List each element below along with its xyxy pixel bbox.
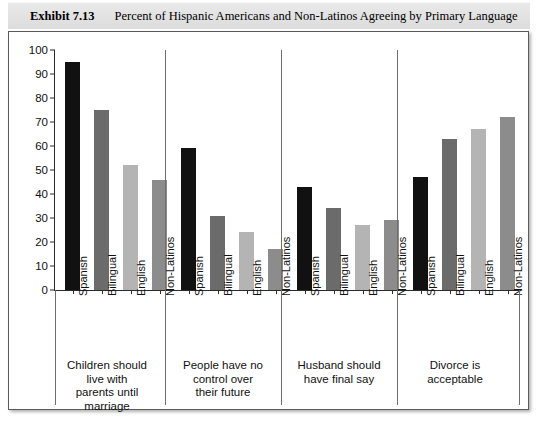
- x-axis-tick-label: English: [123, 294, 138, 354]
- x-axis-tick-mark: [73, 290, 74, 294]
- group-caption: People have nocontrol overtheir future: [167, 359, 279, 400]
- x-axis-tick-mark: [276, 290, 277, 294]
- y-axis-tick-label: 50: [35, 164, 48, 176]
- y-axis-tick-label: 70: [35, 116, 48, 128]
- y-axis-tick-label: 20: [35, 236, 48, 248]
- x-axis-tick-mark: [247, 290, 248, 294]
- x-axis-tick-mark: [392, 290, 393, 294]
- x-axis-tick-mark: [218, 290, 219, 294]
- chart-frame: 0102030405060708090100 SpanishBilingualE…: [8, 31, 529, 410]
- group-caption-line: acceptable: [399, 373, 511, 387]
- x-axis-tick-mark: [450, 290, 451, 294]
- group-separator: [397, 50, 398, 405]
- x-axis-tick-mark: [334, 290, 335, 294]
- x-axis-tick-label: Bilingual: [210, 294, 225, 354]
- x-axis-tick-mark: [189, 290, 190, 294]
- group-caption-line: People have no: [167, 359, 279, 373]
- x-axis-tick-label: English: [471, 294, 486, 354]
- x-axis-tick-label: Spanish: [413, 294, 428, 354]
- group-caption-line: their future: [167, 386, 279, 400]
- x-axis-tick-label: English: [239, 294, 254, 354]
- x-axis-tick-mark: [508, 290, 509, 294]
- x-axis-tick-label: Spanish: [65, 294, 80, 354]
- x-axis-tick-mark: [421, 290, 422, 294]
- x-axis-tick-label: Non-Latinos: [500, 294, 515, 354]
- group-caption-line: parents until: [51, 386, 163, 400]
- group-separator: [281, 50, 282, 405]
- exhibit-header: Exhibit 7.13 Percent of Hispanic America…: [8, 2, 530, 29]
- y-axis-tick-label: 60: [35, 140, 48, 152]
- exhibit-number: Exhibit 7.13: [30, 9, 95, 24]
- group-caption-line: live with: [51, 373, 163, 387]
- x-axis-tick-label: Bilingual: [94, 294, 109, 354]
- y-axis-tick-label: 90: [35, 68, 48, 80]
- x-axis-tick-mark: [305, 290, 306, 294]
- group-caption-line: marriage: [51, 400, 163, 414]
- y-axis-tick-label: 100: [29, 44, 48, 56]
- x-axis-tick-label: Spanish: [181, 294, 196, 354]
- group-caption-line: Divorce is: [399, 359, 511, 373]
- group-caption: Divorce isacceptable: [399, 359, 511, 386]
- x-axis-tick-label: English: [355, 294, 370, 354]
- y-axis-tick-label: 10: [35, 260, 48, 272]
- group-caption: Husband shouldhave final say: [283, 359, 395, 386]
- exhibit-title: Percent of Hispanic Americans and Non-La…: [115, 9, 518, 24]
- x-axis-tick-mark: [131, 290, 132, 294]
- y-axis-tick-label: 0: [42, 284, 48, 296]
- group-caption-line: Children should: [51, 359, 163, 373]
- group-caption: Children shouldlive withparents untilmar…: [51, 359, 163, 413]
- x-axis-tick-mark: [102, 290, 103, 294]
- group-separator-start: [55, 290, 56, 405]
- group-separator-end: [519, 290, 520, 405]
- y-axis-tick-label: 30: [35, 212, 48, 224]
- group-caption-line: have final say: [283, 373, 395, 387]
- y-axis-tick-label: 80: [35, 92, 48, 104]
- x-axis-tick-label: Bilingual: [326, 294, 341, 354]
- x-axis-tick-mark: [363, 290, 364, 294]
- x-axis-tick-label: Bilingual: [442, 294, 457, 354]
- group-separator: [165, 50, 166, 405]
- group-caption-line: Husband should: [283, 359, 395, 373]
- group-caption-line: control over: [167, 373, 279, 387]
- x-axis-tick-label: Spanish: [297, 294, 312, 354]
- x-axis-tick-mark: [479, 290, 480, 294]
- x-axis-tick-mark: [160, 290, 161, 294]
- y-axis-tick-label: 40: [35, 188, 48, 200]
